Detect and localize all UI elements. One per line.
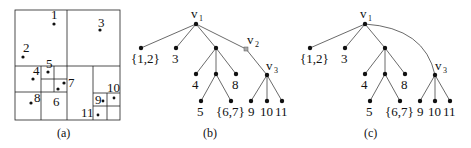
leaf-label: 11: [275, 104, 288, 119]
point-label: 7: [68, 75, 75, 90]
tree-leaf-10: [433, 99, 437, 103]
leaf-label: 5: [366, 104, 373, 119]
caption-a: (a): [57, 126, 70, 140]
figure: 1 3 2 4 5 7 6 8 9 10 11 (a): [0, 0, 471, 148]
leaf-label: 3: [341, 51, 348, 66]
tree-leaf-11: [448, 99, 452, 103]
point-8: [29, 101, 32, 104]
leaf-label: 9: [248, 104, 255, 119]
node-label-v1-sub: 1: [368, 14, 372, 23]
tree-node-v1: [194, 22, 198, 26]
leaf-label: {1,2}: [131, 51, 160, 66]
node-label-v3-sub: 3: [274, 66, 278, 75]
leaf-label: 10: [260, 104, 273, 119]
point-label: 2: [23, 40, 30, 55]
leaf-label: 11: [443, 104, 456, 119]
node-label-v3: v: [435, 58, 442, 73]
point-label: 5: [46, 56, 53, 71]
point-6-dot: [56, 87, 59, 90]
point-9: [102, 100, 105, 103]
node-label-v3-sub: 3: [443, 66, 447, 75]
tree-leaf-3: [174, 46, 178, 50]
tree-node-internal: [214, 46, 218, 50]
node-label-v3: v: [266, 58, 273, 73]
tree-node-v3: [265, 73, 269, 77]
point-7: [62, 81, 65, 84]
tree-leaf-11: [280, 99, 284, 103]
point-label: 11: [81, 105, 94, 120]
point-1: [52, 22, 55, 25]
leaf-label: 3: [172, 51, 179, 66]
node-label-v1-sub: 1: [199, 14, 203, 23]
leaf-label: 4: [361, 77, 368, 92]
tree-leaf-1-2: [139, 46, 143, 50]
point-11: [97, 114, 100, 117]
leaf-label: 8: [232, 77, 239, 92]
point-10: [113, 97, 116, 100]
node-label-v1: v: [360, 6, 367, 21]
tree-leaf-10: [265, 99, 269, 103]
tree-leaf-8: [234, 72, 238, 76]
tree-leaf-1-2: [308, 46, 312, 50]
point-label: 4: [33, 63, 40, 78]
point-2: [21, 55, 24, 58]
point-label: 10: [107, 80, 120, 95]
tree-node-internal: [383, 72, 387, 76]
leaf-label: 9: [417, 104, 424, 119]
point-label: 8: [34, 90, 41, 105]
panel-c-tree: v 1 {1,2} 3 4 8 v 3 5 {6,7} 9 10 11 (c): [300, 6, 456, 140]
tree-leaf-9: [249, 99, 253, 103]
tree-node-internal: [383, 46, 387, 50]
point-label: 9: [95, 92, 102, 107]
tree-leaf-6-7: [229, 99, 233, 103]
leaf-label: {1,2}: [300, 51, 329, 66]
tree-leaf-4: [363, 72, 367, 76]
tree-leaf-3: [343, 46, 347, 50]
tree-leaf-5: [368, 99, 372, 103]
leaf-label: {6,7}: [385, 104, 414, 119]
leaf-label: 8: [401, 77, 408, 92]
leaf-label: 5: [197, 104, 204, 119]
tree-node-v3: [433, 73, 437, 77]
tree-leaf-5: [199, 99, 203, 103]
leaf-label: 4: [192, 77, 199, 92]
tree-leaf-9: [418, 99, 422, 103]
tree-leaf-6-7: [398, 99, 402, 103]
node-label-v2: v: [247, 32, 254, 47]
point-label: 6: [53, 94, 60, 109]
panel-a-quadtree: 1 3 2 4 5 7 6 8 9 10 11 (a): [15, 7, 120, 140]
point-label: 1: [51, 7, 58, 22]
tree-leaf-4: [194, 72, 198, 76]
point-label: 3: [98, 15, 105, 30]
tree-node-v2: [244, 47, 248, 51]
node-label-v1: v: [191, 6, 198, 21]
leaf-label: 10: [428, 104, 441, 119]
caption-c: (c): [364, 126, 377, 140]
leaf-label: {6,7}: [216, 104, 245, 119]
node-label-v2-sub: 2: [255, 40, 259, 49]
tree-leaf-8: [403, 72, 407, 76]
caption-b: (b): [203, 126, 217, 140]
tree-node-internal: [214, 72, 218, 76]
panel-b-tree: v 1 {1,2} 3 v 2 4 8 v 3 5 {6,7} 9 10 11 …: [131, 6, 288, 140]
tree-node-v1: [363, 22, 367, 26]
